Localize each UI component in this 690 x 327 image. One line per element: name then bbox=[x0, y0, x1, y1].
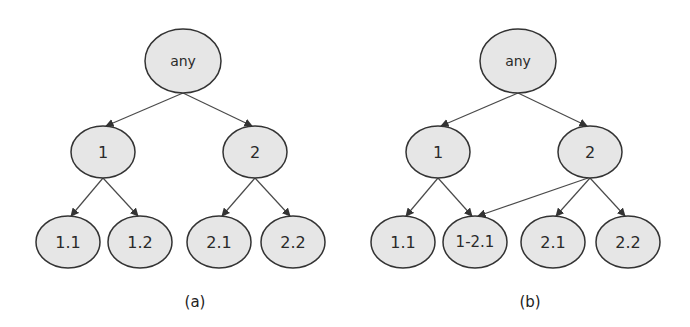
tree-node-2-2: 2.2 bbox=[261, 216, 325, 268]
nodes-group: any121.11-2.12.12.2 bbox=[371, 29, 660, 268]
tree-node-2: 2 bbox=[558, 126, 622, 178]
edge-1-to-1-1 bbox=[71, 178, 103, 216]
edge-1-to-1-2-1 bbox=[438, 178, 472, 216]
node-label: 1.1 bbox=[55, 233, 80, 252]
edge-1-to-1-1 bbox=[406, 178, 438, 216]
hierarchy-diagram-canvas: any121.11.22.12.2 (a) any121.11-2.12.12.… bbox=[0, 0, 690, 327]
tree-node-1: 1 bbox=[406, 126, 470, 178]
tree-node-1-1: 1.1 bbox=[371, 216, 435, 268]
tree-node-1-2-1: 1-2.1 bbox=[443, 216, 507, 268]
node-label: 1.1 bbox=[390, 233, 415, 252]
nodes-group: any121.11.22.12.2 bbox=[36, 29, 325, 268]
node-label: 2.2 bbox=[615, 233, 640, 252]
node-label: 2.1 bbox=[206, 233, 231, 252]
edge-1-to-1-2 bbox=[103, 178, 138, 216]
tree-node-2-1: 2.1 bbox=[187, 216, 251, 268]
node-label: 1-2.1 bbox=[456, 233, 495, 251]
node-label: any bbox=[170, 53, 196, 69]
node-label: 1 bbox=[433, 143, 443, 162]
tree-node-1: 1 bbox=[71, 126, 135, 178]
diagram-a: any121.11.22.12.2 (a) bbox=[36, 29, 325, 311]
edge-2-to-1-2-1 bbox=[478, 178, 588, 216]
tree-node-1-1: 1.1 bbox=[36, 216, 100, 268]
node-label: 2 bbox=[250, 143, 260, 162]
tree-node-any: any bbox=[480, 29, 556, 93]
tree-node-any: any bbox=[145, 29, 221, 93]
tree-node-2: 2 bbox=[223, 126, 287, 178]
edge-2-to-2-2 bbox=[255, 178, 290, 216]
diagram-caption-b: (b) bbox=[519, 293, 540, 311]
diagram-caption-a: (a) bbox=[185, 293, 206, 311]
edge-2-to-2-2 bbox=[590, 178, 625, 216]
tree-node-1-2: 1.2 bbox=[108, 216, 172, 268]
node-label: 2 bbox=[585, 143, 595, 162]
node-label: 1 bbox=[98, 143, 108, 162]
diagram-b: any121.11-2.12.12.2 (b) bbox=[371, 29, 660, 311]
node-label: 2.1 bbox=[540, 233, 565, 252]
edge-any-to-2 bbox=[518, 93, 587, 126]
node-label: 2.2 bbox=[280, 233, 305, 252]
edge-any-to-2 bbox=[183, 93, 252, 126]
edge-any-to-1 bbox=[441, 93, 518, 126]
edge-2-to-2-1 bbox=[222, 178, 255, 216]
node-label: 1.2 bbox=[127, 233, 152, 252]
node-label: any bbox=[505, 53, 531, 69]
tree-node-2-1: 2.1 bbox=[521, 216, 585, 268]
edge-any-to-1 bbox=[106, 93, 183, 126]
tree-node-2-2: 2.2 bbox=[596, 216, 660, 268]
